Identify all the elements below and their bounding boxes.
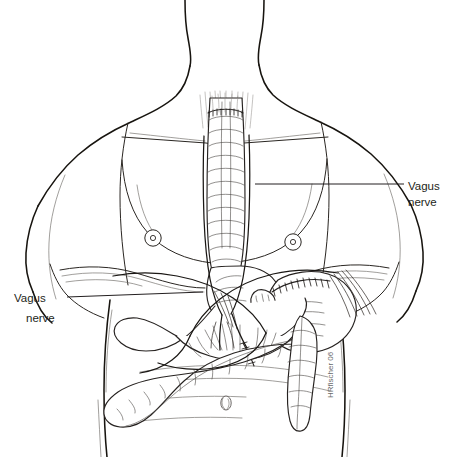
label-right-line1: Vagus — [408, 180, 440, 192]
left-nipple — [145, 230, 161, 246]
label-left-line1: Vagus — [14, 292, 46, 304]
artist-signature: HRfischer 06 — [326, 351, 335, 398]
umbilicus — [221, 396, 231, 410]
anatomy-illustration: Vagus nerve Vagus nerve HRfischer 06 — [0, 0, 449, 457]
label-vagus-nerve-right: Vagus nerve — [408, 180, 440, 208]
signature-text: HRfischer 06 — [326, 351, 335, 398]
leader-line-left — [67, 292, 203, 297]
label-right-line2: nerve — [408, 196, 437, 208]
anatomy-svg: Vagus nerve Vagus nerve HRfischer 06 — [0, 0, 449, 457]
esophagus — [207, 93, 245, 281]
right-nipple — [285, 234, 301, 250]
label-vagus-nerve-left: Vagus nerve — [14, 292, 55, 324]
label-left-line2: nerve — [26, 312, 55, 324]
stomach-and-bypass — [114, 266, 356, 366]
